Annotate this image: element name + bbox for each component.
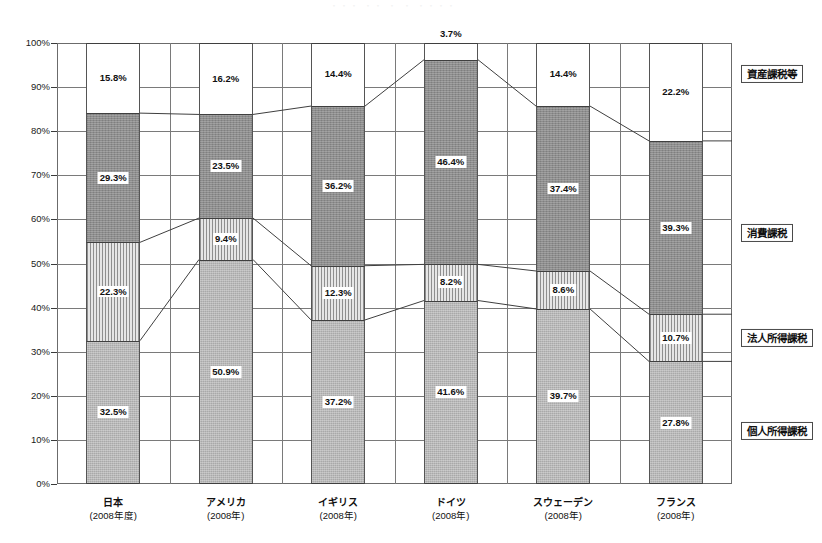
value-label: 22.3%: [98, 286, 129, 298]
value-label: 36.2%: [323, 180, 354, 192]
x-category-year: (2008年): [166, 510, 286, 523]
legend-item-consumption[interactable]: 消費課税: [741, 224, 793, 242]
x-category-name: アメリカ: [166, 496, 286, 510]
value-label: 22.2%: [660, 86, 691, 98]
x-category-year: (2008年): [391, 510, 511, 523]
y-tick-label: 100%: [2, 38, 50, 48]
value-label: 32.5%: [98, 406, 129, 418]
y-tick-mark: [51, 484, 57, 485]
x-category-year: (2008年): [278, 510, 398, 523]
x-category-label: 日本(2008年度): [53, 496, 173, 522]
value-label: 41.6%: [435, 386, 466, 398]
bar-3: [424, 43, 478, 484]
value-label: 14.4%: [323, 68, 354, 80]
value-label: 15.8%: [98, 72, 129, 84]
value-label: 37.2%: [323, 396, 354, 408]
value-label: 10.7%: [660, 332, 691, 344]
legend-item-asset[interactable]: 資産課税等: [741, 65, 803, 83]
value-label: 29.3%: [98, 172, 129, 184]
category-separator: [170, 43, 171, 484]
value-label: 23.5%: [210, 160, 241, 172]
y-tick-label: 60%: [2, 214, 50, 224]
y-tick-label: 10%: [2, 435, 50, 445]
x-category-name: ドイツ: [391, 496, 511, 510]
value-label: 3.7%: [438, 28, 464, 40]
x-category-name: スウェーデン: [503, 496, 623, 510]
value-label: 50.9%: [210, 366, 241, 378]
cropped-title-fragment: ・・・ ・・ ・ ・ ・・・・: [330, 0, 530, 10]
y-tick-label: 70%: [2, 170, 50, 180]
value-label: 8.6%: [550, 284, 576, 296]
y-tick-label: 50%: [2, 259, 50, 269]
value-label: 9.4%: [213, 233, 239, 245]
x-category-label: スウェーデン(2008年): [503, 496, 623, 522]
value-label: 39.3%: [660, 222, 691, 234]
y-tick-label: 40%: [2, 303, 50, 313]
x-category-name: フランス: [616, 496, 736, 510]
y-tick-label: 80%: [2, 126, 50, 136]
y-tick-label: 30%: [2, 347, 50, 357]
x-category-label: フランス(2008年): [616, 496, 736, 522]
bar-2: [311, 43, 365, 484]
bar-1: [199, 43, 253, 484]
bar-4: [536, 43, 590, 484]
legend-item-corporate[interactable]: 法人所得課税: [741, 329, 813, 347]
x-category-name: 日本: [53, 496, 173, 510]
value-label: 8.2%: [438, 276, 464, 288]
value-label: 39.7%: [548, 390, 579, 402]
legend-item-personal[interactable]: 個人所得課税: [741, 422, 813, 440]
y-tick-label: 90%: [2, 82, 50, 92]
value-label: 16.2%: [210, 73, 241, 85]
value-label: 27.8%: [660, 417, 691, 429]
x-category-year: (2008年度): [53, 510, 173, 523]
value-label: 37.4%: [548, 183, 579, 195]
value-label: 12.3%: [323, 287, 354, 299]
x-category-name: イギリス: [278, 496, 398, 510]
x-category-year: (2008年): [503, 510, 623, 523]
y-tick-mark: [51, 43, 57, 44]
category-separator: [395, 43, 396, 484]
category-separator: [620, 43, 621, 484]
value-label: 14.4%: [548, 68, 579, 80]
y-tick-label: 20%: [2, 391, 50, 401]
value-label: 46.4%: [435, 156, 466, 168]
category-separator: [282, 43, 283, 484]
bar-segment-資産課税等: [424, 43, 478, 59]
chart-root: ・・・ ・・ ・ ・ ・・・・ 0%10%20%30%40%50%60%70%8…: [0, 0, 822, 543]
y-tick-label: 0%: [2, 479, 50, 489]
x-category-label: イギリス(2008年): [278, 496, 398, 522]
x-category-label: ドイツ(2008年): [391, 496, 511, 522]
category-separator: [507, 43, 508, 484]
x-category-label: アメリカ(2008年): [166, 496, 286, 522]
x-category-year: (2008年): [616, 510, 736, 523]
